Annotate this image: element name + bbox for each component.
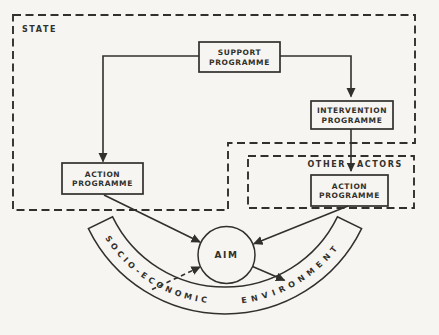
state-region-label: STATE (22, 25, 57, 34)
programme-flow-diagram: SOCIO-ECONOMIC ENVIRONMENT STATE OTHER A… (0, 0, 439, 335)
aim-label: AIM (214, 250, 238, 260)
other-actors-label-right: ACTORS (357, 160, 403, 169)
action-programme-other-actors-box: ACTION PROGRAMME (311, 175, 388, 206)
diagram-page: SOCIO-ECONOMIC ENVIRONMENT STATE OTHER A… (0, 0, 439, 335)
intervention-programme-box: INTERVENTION PROGRAMME (311, 101, 393, 129)
intervention-programme-label-line1: INTERVENTION (317, 106, 387, 115)
support-programme-box: SUPPORT PROGRAMME (199, 42, 280, 72)
action-programme-state-label-line2: PROGRAMME (72, 179, 133, 188)
connector-support-to-action-state (103, 56, 199, 162)
intervention-programme-label-line2: PROGRAMME (322, 116, 383, 125)
action-programme-state-label-line1: ACTION (85, 170, 120, 179)
connector-aim-to-environment (253, 266, 285, 280)
support-programme-label-line1: SUPPORT (218, 48, 262, 57)
action-programme-state-box: ACTION PROGRAMME (62, 163, 143, 194)
other-actors-label-left: OTHER (307, 160, 346, 169)
connector-support-to-intervention (280, 56, 351, 97)
aim-node: AIM (198, 227, 255, 284)
action-programme-other-actors-label-line2: PROGRAMME (319, 191, 380, 200)
support-programme-label-line2: PROGRAMME (209, 58, 270, 67)
action-programme-other-actors-label-line1: ACTION (332, 182, 367, 191)
